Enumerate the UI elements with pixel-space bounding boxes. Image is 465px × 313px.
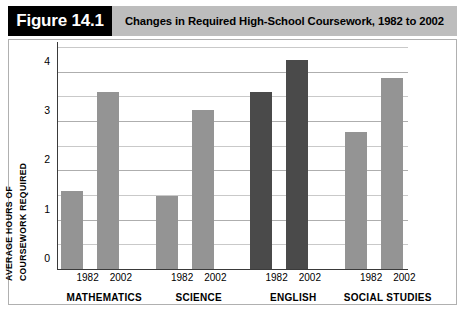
x-axis-year-labels: 19822002 [246, 272, 341, 283]
x-axis-group: 19822002MATHEMATICS [57, 272, 152, 303]
y-axis-tick-label: 4 [44, 55, 50, 67]
x-axis-year-label: 1982 [360, 272, 382, 283]
x-axis-category-label: SOCIAL STUDIES [341, 292, 436, 303]
x-axis-year-labels: 19822002 [57, 272, 152, 283]
figure-title-bar: Changes in Required High-School Coursewo… [112, 6, 457, 36]
x-axis-labels: 19822002MATHEMATICS19822002SCIENCE198220… [57, 272, 435, 308]
bar [345, 132, 367, 270]
x-axis-year-label: 1982 [77, 272, 99, 283]
x-axis-group: 19822002SOCIAL STUDIES [341, 272, 436, 303]
gridline [57, 47, 408, 48]
figure-title: Changes in Required High-School Coursewo… [125, 15, 444, 27]
y-axis-tick-label: 1 [44, 203, 50, 215]
gridline [57, 72, 408, 73]
y-axis-tick-label: 2 [44, 153, 50, 165]
figure-container: Figure 14.1 Changes in Required High-Sch… [0, 0, 465, 313]
y-axis-title-line-1: AVERAGE HOURS OF [4, 186, 14, 281]
plot-inner: 01234 [57, 48, 435, 270]
x-axis-year-label: 2002 [299, 272, 321, 283]
figure-number-text: Figure 14.1 [16, 11, 104, 31]
bar [286, 60, 308, 270]
plot-area: 01234 [57, 48, 435, 270]
x-axis-year-label: 2002 [393, 272, 415, 283]
y-axis-tick-label: 0 [44, 252, 50, 264]
bar [97, 92, 119, 270]
figure-header: Figure 14.1 Changes in Required High-Sch… [8, 6, 457, 36]
bar [250, 92, 272, 270]
x-axis-year-label: 2002 [110, 272, 132, 283]
y-axis-title-line-2: COURSEWORK REQUIRED [18, 163, 28, 281]
x-axis-year-label: 1982 [171, 272, 193, 283]
x-axis-group: 19822002SCIENCE [152, 272, 247, 303]
x-axis-line [57, 269, 408, 271]
x-axis-year-labels: 19822002 [152, 272, 247, 283]
x-axis-year-label: 1982 [266, 272, 288, 283]
x-axis-group: 19822002ENGLISH [246, 272, 341, 303]
bar [156, 196, 178, 270]
y-axis-title: AVERAGE HOURS OF COURSEWORK REQUIRED [12, 46, 42, 281]
x-axis-category-label: MATHEMATICS [57, 292, 152, 303]
y-axis-tick-label: 3 [44, 104, 50, 116]
bar [381, 78, 403, 270]
x-axis-year-labels: 19822002 [341, 272, 436, 283]
bar [192, 110, 214, 270]
y-axis-line [57, 42, 58, 270]
x-axis-category-label: SCIENCE [152, 292, 247, 303]
x-axis-year-label: 2002 [204, 272, 226, 283]
bar [61, 191, 83, 270]
x-axis-category-label: ENGLISH [246, 292, 341, 303]
figure-number-badge: Figure 14.1 [8, 6, 112, 36]
